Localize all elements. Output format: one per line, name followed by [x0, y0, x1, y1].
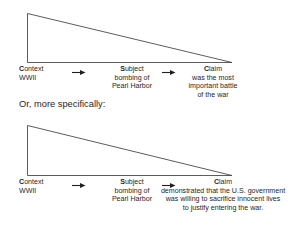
column-subject-top: Subject bombing of Pearl Harbor [104, 65, 160, 91]
interstitial-text: Or, more specifically: [19, 99, 105, 110]
claim-line-3: to justify entering the war. [147, 204, 299, 213]
arrow-subject-to-claim-top [162, 69, 176, 76]
context-heading-bottom: Context [19, 178, 43, 187]
column-context-top: Context WWII [19, 65, 43, 82]
funnel-triangle-bottom [0, 118, 302, 180]
funnel-triangle-top [0, 0, 302, 66]
claim-line-2: was willing to sacrifice innocent lives [147, 195, 299, 204]
context-heading-rest: ontext [24, 178, 43, 186]
arrow-context-to-subject-bottom [72, 182, 86, 189]
subject-heading-rest: ubject [125, 65, 144, 73]
claim-heading-top: Claim [185, 65, 241, 74]
context-line-1: WWII [19, 74, 43, 83]
context-line-1: WWII [19, 187, 43, 196]
claim-heading-bottom: Claim [157, 178, 289, 187]
subject-heading-rest: ubject [125, 178, 144, 186]
claim-line-1: demonstrated that the U.S. government [147, 187, 299, 196]
context-heading-top: Context [19, 65, 43, 74]
claim-line-1: was the most [185, 74, 241, 83]
subject-line-2: Pearl Harbor [104, 82, 160, 91]
column-claim-top: Claim was the most important battle of t… [185, 65, 241, 99]
context-heading-rest: ontext [24, 65, 43, 73]
subject-heading-top: Subject [104, 65, 160, 74]
subject-line-1: bombing of [104, 74, 160, 83]
column-claim-bottom: Claim demonstrated that the U.S. governm… [147, 178, 299, 212]
claim-line-3: of the war [185, 91, 241, 100]
claim-line-2: important battle [185, 82, 241, 91]
column-context-bottom: Context WWII [19, 178, 43, 195]
claim-heading-rest: laim [219, 178, 232, 186]
claim-heading-rest: laim [209, 65, 222, 73]
arrow-context-to-subject-top [72, 69, 86, 76]
